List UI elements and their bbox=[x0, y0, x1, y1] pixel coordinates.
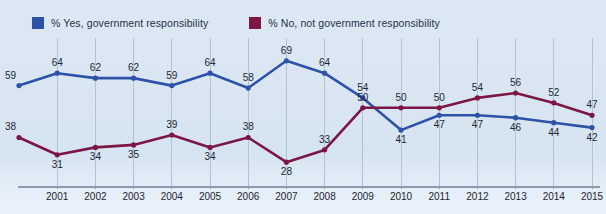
data-label: 28 bbox=[281, 166, 293, 177]
data-label: 64 bbox=[319, 57, 331, 68]
x-axis-tick-label: 2001 bbox=[46, 191, 69, 202]
data-point[interactable] bbox=[55, 71, 60, 76]
x-axis-tick-label: 2008 bbox=[313, 191, 336, 202]
data-label: 47 bbox=[586, 99, 598, 110]
data-label: 64 bbox=[204, 57, 216, 68]
data-point[interactable] bbox=[246, 135, 251, 140]
data-point[interactable] bbox=[207, 71, 212, 76]
data-label: 38 bbox=[243, 121, 255, 132]
data-point[interactable] bbox=[93, 76, 98, 81]
data-label: 50 bbox=[357, 92, 369, 103]
data-point[interactable] bbox=[131, 142, 136, 147]
data-label: 50 bbox=[434, 92, 446, 103]
data-point[interactable] bbox=[589, 125, 594, 130]
data-label: 44 bbox=[548, 127, 560, 138]
data-label: 62 bbox=[128, 62, 140, 73]
x-axis-tick-label: 2010 bbox=[390, 191, 413, 202]
data-label: 34 bbox=[90, 151, 102, 162]
line-chart-svg: 5964626259645869645441474746444238313435… bbox=[0, 38, 606, 188]
data-point[interactable] bbox=[284, 160, 289, 165]
x-axis-tick-label: 2012 bbox=[466, 191, 489, 202]
x-axis-tick-label: 2014 bbox=[543, 191, 566, 202]
data-point[interactable] bbox=[437, 105, 442, 110]
data-point[interactable] bbox=[398, 105, 403, 110]
x-axis-tick-label: 2011 bbox=[428, 191, 450, 202]
data-label: 34 bbox=[204, 151, 216, 162]
data-point[interactable] bbox=[207, 145, 212, 150]
chart-legend: % Yes, government responsibility % No, n… bbox=[0, 12, 606, 34]
data-point[interactable] bbox=[513, 115, 518, 120]
series-line-no bbox=[19, 93, 592, 162]
x-axis-tick-label: 2009 bbox=[352, 191, 375, 202]
data-label: 50 bbox=[395, 92, 407, 103]
data-point[interactable] bbox=[169, 83, 174, 88]
data-label: 46 bbox=[510, 122, 522, 133]
data-label: 59 bbox=[166, 70, 178, 81]
data-point[interactable] bbox=[93, 145, 98, 150]
x-axis-tick-label: 2005 bbox=[199, 191, 222, 202]
data-point[interactable] bbox=[284, 58, 289, 63]
data-point[interactable] bbox=[398, 127, 403, 132]
data-label: 47 bbox=[434, 119, 446, 130]
chart-plot-area: 5964626259645869645441474746444238313435… bbox=[0, 38, 606, 188]
data-label: 42 bbox=[586, 132, 598, 143]
x-axis-tick-label: 2004 bbox=[161, 191, 184, 202]
data-label: 59 bbox=[5, 70, 17, 81]
legend-item-no[interactable]: % No, not government responsibility bbox=[249, 17, 440, 29]
data-point[interactable] bbox=[16, 135, 21, 140]
data-point[interactable] bbox=[16, 83, 21, 88]
data-point[interactable] bbox=[246, 85, 251, 90]
x-axis-tick-label: 2013 bbox=[504, 191, 527, 202]
data-point[interactable] bbox=[55, 152, 60, 157]
data-label: 56 bbox=[510, 77, 522, 88]
data-point[interactable] bbox=[169, 132, 174, 137]
data-point[interactable] bbox=[475, 95, 480, 100]
data-label: 69 bbox=[281, 45, 293, 56]
chart-footer-band bbox=[0, 202, 606, 214]
data-label: 38 bbox=[5, 121, 17, 132]
data-point[interactable] bbox=[437, 113, 442, 118]
legend-item-yes[interactable]: % Yes, government responsibility bbox=[32, 17, 208, 29]
data-label: 35 bbox=[128, 149, 140, 160]
x-axis-tick-label: 2006 bbox=[237, 191, 260, 202]
data-label: 39 bbox=[166, 119, 178, 130]
data-point[interactable] bbox=[551, 120, 556, 125]
data-label: 62 bbox=[90, 62, 102, 73]
data-point[interactable] bbox=[322, 71, 327, 76]
data-point[interactable] bbox=[551, 100, 556, 105]
x-axis-tick-label: 2007 bbox=[275, 191, 298, 202]
x-axis-tick-label: 2015 bbox=[581, 191, 604, 202]
legend-swatch-no-icon bbox=[249, 17, 261, 29]
data-point[interactable] bbox=[589, 113, 594, 118]
data-point[interactable] bbox=[360, 105, 365, 110]
data-label: 47 bbox=[472, 119, 484, 130]
legend-label-yes: % Yes, government responsibility bbox=[51, 17, 208, 29]
legend-swatch-yes-icon bbox=[32, 17, 44, 29]
data-label: 31 bbox=[52, 159, 64, 170]
data-point[interactable] bbox=[513, 90, 518, 95]
data-label: 64 bbox=[52, 57, 64, 68]
x-axis-tick-label: 2003 bbox=[122, 191, 145, 202]
data-label: 41 bbox=[395, 134, 407, 145]
legend-label-no: % No, not government responsibility bbox=[268, 17, 440, 29]
x-axis-tick-label: 2002 bbox=[84, 191, 107, 202]
data-point[interactable] bbox=[131, 76, 136, 81]
data-point[interactable] bbox=[322, 147, 327, 152]
data-label: 33 bbox=[319, 134, 331, 145]
data-label: 54 bbox=[472, 82, 484, 93]
data-label: 52 bbox=[548, 87, 560, 98]
data-label: 58 bbox=[243, 72, 255, 83]
data-point[interactable] bbox=[475, 113, 480, 118]
